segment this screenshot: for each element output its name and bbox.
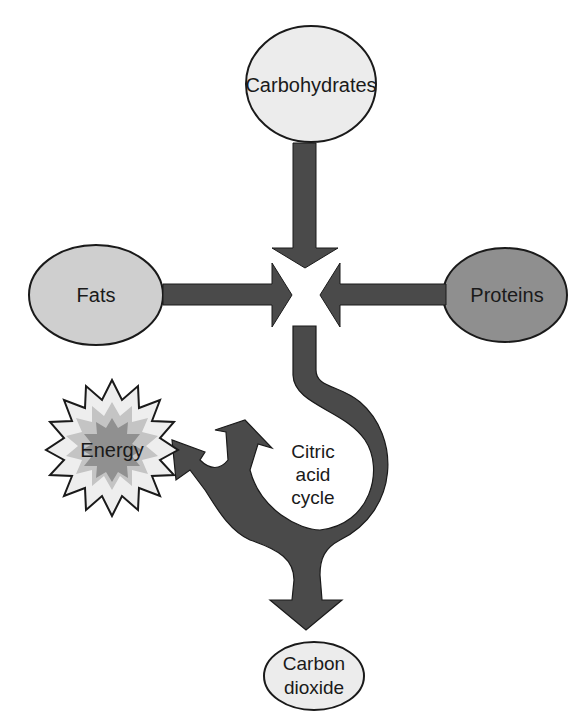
citric-acid-cycle-loop	[172, 326, 388, 630]
metabolism-diagram: Carbohydrates Fats Proteins Energy Citri…	[0, 0, 584, 711]
svg-text:Citric: Citric	[291, 441, 334, 462]
fats-node: Fats	[29, 245, 163, 345]
citric-acid-cycle-label: Citric acid cycle	[291, 441, 334, 508]
carbohydrates-label: Carbohydrates	[245, 74, 376, 96]
energy-label: Energy	[80, 439, 143, 461]
svg-text:acid: acid	[296, 464, 331, 485]
proteins-arrow	[320, 263, 446, 327]
fats-arrow	[163, 263, 292, 327]
carbon-dioxide-node: Carbon dioxide	[264, 642, 364, 710]
fats-label: Fats	[77, 284, 116, 306]
carbohydrates-arrow	[272, 143, 338, 268]
svg-text:Carbon: Carbon	[283, 653, 345, 674]
svg-text:dioxide: dioxide	[284, 677, 344, 698]
proteins-node: Proteins	[443, 248, 567, 342]
svg-text:cycle: cycle	[291, 487, 334, 508]
proteins-label: Proteins	[470, 284, 543, 306]
energy-node: Energy	[46, 380, 178, 516]
carbohydrates-node: Carbohydrates	[245, 26, 376, 142]
